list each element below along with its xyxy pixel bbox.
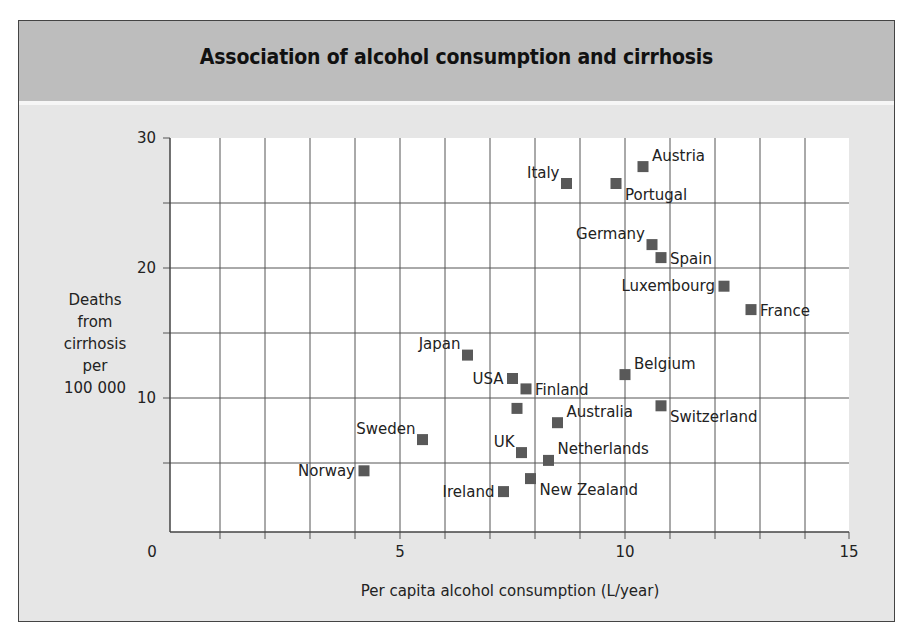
data-point-label: Ireland [443,483,495,501]
data-point-marker [620,369,631,380]
data-point-label: Finland [535,381,589,399]
data-point-label: Japan [418,335,461,353]
data-point-label: Australia [567,403,633,421]
data-point-label: Germany [576,225,645,243]
data-point-marker [552,417,563,428]
x-tick-label: 15 [839,543,858,561]
data-point-marker [359,465,370,476]
data-point-label: Norway [298,462,355,480]
scatter-plot: 051015102030Per capita alcohol consumpti… [0,0,913,641]
data-point-label: Belgium [634,355,696,373]
data-point-label: Sweden [356,420,415,438]
data-point-marker [512,403,523,414]
data-point-marker [507,373,518,384]
data-point-label: Spain [670,250,712,268]
data-point-label: UK [494,433,516,451]
data-point-label: Portugal [625,186,687,204]
data-point-label: Italy [527,164,560,182]
data-point-label: Netherlands [558,440,650,458]
data-point-label: Switzerland [670,408,758,426]
y-tick-label: 20 [137,259,156,277]
data-point-marker [543,455,554,466]
plot-area [170,138,849,532]
data-point-marker [498,486,509,497]
data-point-label: Luxembourg [622,277,716,295]
data-point-marker [462,350,473,361]
data-point-label: New Zealand [540,481,639,499]
data-point-marker [656,252,667,263]
x-tick-label: 0 [147,543,157,561]
data-point-label: Austria [652,147,705,165]
data-point-marker [516,447,527,458]
x-tick-label: 10 [615,543,634,561]
data-point-marker [647,239,658,250]
data-point-marker [656,400,667,411]
data-point-marker [561,178,572,189]
data-point-marker [719,281,730,292]
data-point-marker [746,304,757,315]
y-tick-label: 30 [137,129,156,147]
data-point-marker [417,434,428,445]
data-point-label: USA [472,370,504,388]
data-point-marker [638,161,649,172]
x-tick-label: 5 [395,543,405,561]
data-point-marker [525,473,536,484]
y-tick-label: 10 [137,389,156,407]
x-axis-title: Per capita alcohol consumption (L/year) [361,582,660,600]
data-point-label: France [760,302,810,320]
data-point-marker [521,383,532,394]
data-point-marker [611,178,622,189]
